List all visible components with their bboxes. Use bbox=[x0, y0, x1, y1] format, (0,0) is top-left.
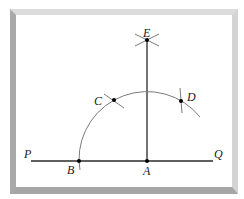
label-a: A bbox=[142, 164, 151, 178]
label-p: P bbox=[23, 147, 32, 161]
label-c: C bbox=[94, 94, 103, 108]
point-c bbox=[112, 98, 116, 102]
geometry-diagram: P Q A B C D E bbox=[0, 0, 244, 199]
label-q: Q bbox=[214, 147, 223, 161]
label-b: B bbox=[67, 163, 75, 177]
label-d: D bbox=[186, 90, 196, 104]
point-b bbox=[77, 159, 81, 163]
label-e: E bbox=[142, 26, 151, 40]
point-a bbox=[145, 159, 149, 163]
point-d bbox=[179, 99, 183, 103]
